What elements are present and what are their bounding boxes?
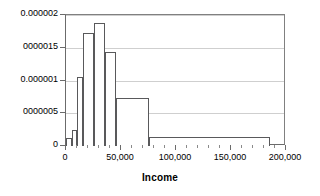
x-axis-minor-tick <box>219 145 220 148</box>
x-axis-minor-tick <box>252 145 253 148</box>
x-axis-labels: 050,000100,000150,000200,000 <box>0 152 320 164</box>
x-axis-ticks <box>65 145 285 151</box>
x-axis-tick <box>230 145 231 150</box>
x-axis-minor-tick <box>263 145 264 148</box>
x-axis-tick <box>175 145 176 150</box>
histogram-bar <box>94 23 105 146</box>
x-axis-tick <box>120 145 121 150</box>
plot-area <box>65 14 285 145</box>
x-axis-tick <box>65 145 66 150</box>
x-axis-tick-label: 0 <box>62 152 67 162</box>
histogram-bar <box>116 98 149 146</box>
x-axis-tick-label: 50,000 <box>106 152 134 162</box>
x-axis-minor-tick <box>208 145 209 148</box>
x-axis-minor-tick <box>241 145 242 148</box>
x-axis-minor-tick <box>186 145 187 148</box>
x-axis-minor-tick <box>274 145 275 148</box>
x-axis-minor-tick <box>87 145 88 148</box>
histogram-bar <box>105 52 116 146</box>
histogram-bar <box>83 33 94 146</box>
x-axis-minor-tick <box>197 145 198 148</box>
x-axis-minor-tick <box>164 145 165 148</box>
x-axis-tick <box>285 145 286 150</box>
x-axis-title: Income <box>0 172 320 183</box>
x-axis-minor-tick <box>142 145 143 148</box>
x-axis-tick-label: 150,000 <box>214 152 247 162</box>
x-axis-tick-label: 100,000 <box>159 152 192 162</box>
x-axis-minor-tick <box>153 145 154 148</box>
y-axis-ticks <box>0 14 65 145</box>
x-axis-minor-tick <box>76 145 77 148</box>
histogram-bars <box>66 15 284 144</box>
x-axis-tick-label: 200,000 <box>269 152 302 162</box>
x-axis-minor-tick <box>109 145 110 148</box>
x-axis-minor-tick <box>98 145 99 148</box>
x-axis-minor-tick <box>131 145 132 148</box>
income-histogram-chart: 000000050.00000100000150.000002 050,0001… <box>0 0 320 196</box>
